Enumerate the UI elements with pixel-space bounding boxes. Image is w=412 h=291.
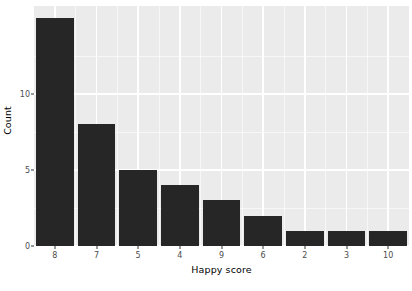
x-axis-tick-label: 10: [383, 251, 393, 260]
x-axis-tick-label: 3: [344, 251, 349, 260]
y-axis-title-label: Count: [2, 106, 13, 135]
bar: [328, 231, 366, 246]
y-axis-tick-label: 5: [25, 166, 30, 175]
x-axis-tick-label: 5: [136, 251, 141, 260]
x-axis-tick-mark: [388, 246, 389, 249]
x-axis-tick-label: 2: [302, 251, 307, 260]
bar-chart: Count 0510 8754962310 Happy score: [0, 0, 412, 291]
gridline-minor-vertical: [117, 6, 118, 246]
gridline-minor-vertical: [75, 6, 76, 246]
x-axis-tick-mark: [346, 246, 347, 249]
bar: [78, 124, 116, 246]
bar: [161, 185, 199, 246]
gridline-major-vertical: [262, 6, 263, 246]
x-axis-tick-mark: [54, 246, 55, 249]
y-axis-tick-label: 0: [25, 242, 30, 251]
gridline-major-vertical: [346, 6, 347, 246]
x-axis-tick-mark: [138, 246, 139, 249]
gridline-minor-vertical: [159, 6, 160, 246]
gridline-minor-vertical: [367, 6, 368, 246]
x-axis-tick-label: 9: [219, 251, 224, 260]
y-axis-title: Count: [0, 0, 14, 240]
x-axis-tick-mark: [179, 246, 180, 249]
gridline-minor-vertical: [200, 6, 201, 246]
bar: [369, 231, 407, 246]
y-axis-tick-group: 0510: [14, 0, 34, 247]
gridline-minor-vertical: [284, 6, 285, 246]
x-axis-tick-mark: [96, 246, 97, 249]
gridline-major-vertical: [304, 6, 305, 246]
x-axis-tick-label: 6: [261, 251, 266, 260]
bar: [286, 231, 324, 246]
plot-panel: [34, 6, 409, 246]
x-axis-tick-group: 8754962310: [34, 246, 409, 266]
bar: [36, 18, 74, 246]
gridline-major-vertical: [387, 6, 388, 246]
x-axis-tick-mark: [304, 246, 305, 249]
bar: [244, 216, 282, 246]
gridline-minor-vertical: [242, 6, 243, 246]
x-axis-tick-mark: [263, 246, 264, 249]
gridline-minor-vertical: [325, 6, 326, 246]
x-axis-tick-label: 8: [52, 251, 57, 260]
bar: [203, 200, 241, 246]
x-axis-tick-label: 4: [177, 251, 182, 260]
x-axis-title: Happy score: [34, 264, 409, 275]
x-axis-tick-label: 7: [94, 251, 99, 260]
x-axis-tick-mark: [221, 246, 222, 249]
y-axis-tick-label: 10: [20, 90, 30, 99]
bar: [119, 170, 157, 246]
